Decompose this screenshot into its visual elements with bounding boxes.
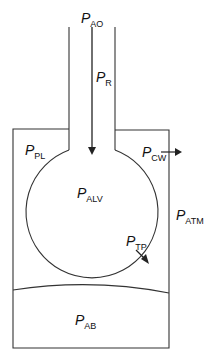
label-p-atm: PATM — [176, 207, 204, 226]
label-p-tp: PTP — [126, 233, 147, 252]
label-p-ab: PAB — [75, 312, 96, 331]
label-p-ao: PAO — [81, 10, 103, 29]
label-p-pl: PPL — [25, 142, 45, 161]
airflow-arrow-head-icon — [88, 147, 96, 155]
diaphragm-curve — [13, 285, 169, 293]
respiratory-diagram — [0, 0, 213, 358]
label-p-cw: PCW — [142, 144, 166, 163]
label-p-alv: PALV — [77, 185, 103, 204]
chest-wall-arrow-head-icon — [175, 148, 182, 156]
alveolus-circle — [26, 150, 158, 278]
label-p-r: PR — [96, 69, 112, 88]
